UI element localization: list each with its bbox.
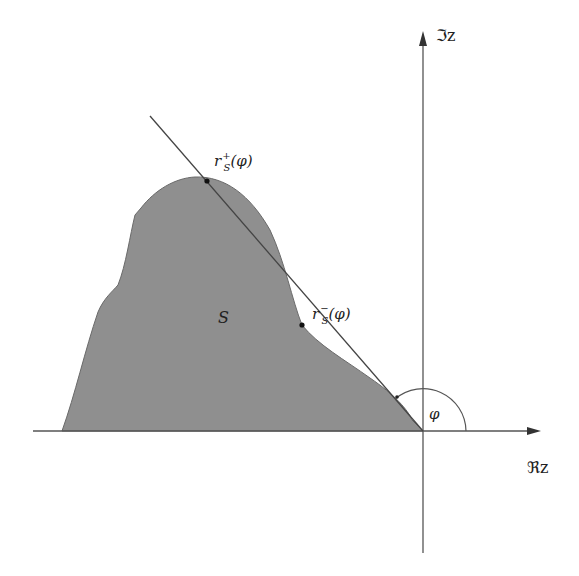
point-r-minus [299,322,304,327]
region-s [62,177,423,431]
point-r-plus-label: r+S(φ) [214,150,253,173]
angle-arc-dot [395,395,399,399]
imaginary-axis-label: ℑz [436,26,455,45]
region-label: S [218,308,229,327]
label-arg: (φ) [328,305,350,323]
label-base: r [214,152,221,170]
imaginary-axis-arrow-icon [419,31,427,46]
angle-label: φ [429,405,440,423]
real-axis-label: ℜz [527,458,548,477]
diagram-canvas [0,0,579,576]
real-axis-arrow-icon [527,427,541,435]
label-arg: (φ) [230,152,252,170]
point-r-minus-label: r−S(φ) [312,303,351,326]
label-base: r [312,305,319,323]
point-r-plus [204,178,209,183]
